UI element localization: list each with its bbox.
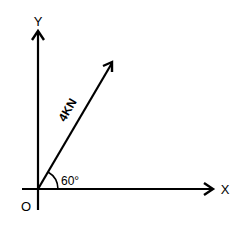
angle-arc	[48, 172, 58, 189]
y-axis-label: Y	[34, 14, 43, 29]
x-axis-label: X	[221, 182, 230, 197]
force-vector	[38, 62, 112, 189]
angle-label: 60°	[61, 174, 79, 188]
vector-magnitude-label: 4KN	[55, 96, 79, 124]
origin-label: O	[21, 199, 31, 214]
x-axis	[22, 183, 213, 195]
force-diagram: Y X O 60° 4KN	[0, 0, 239, 225]
